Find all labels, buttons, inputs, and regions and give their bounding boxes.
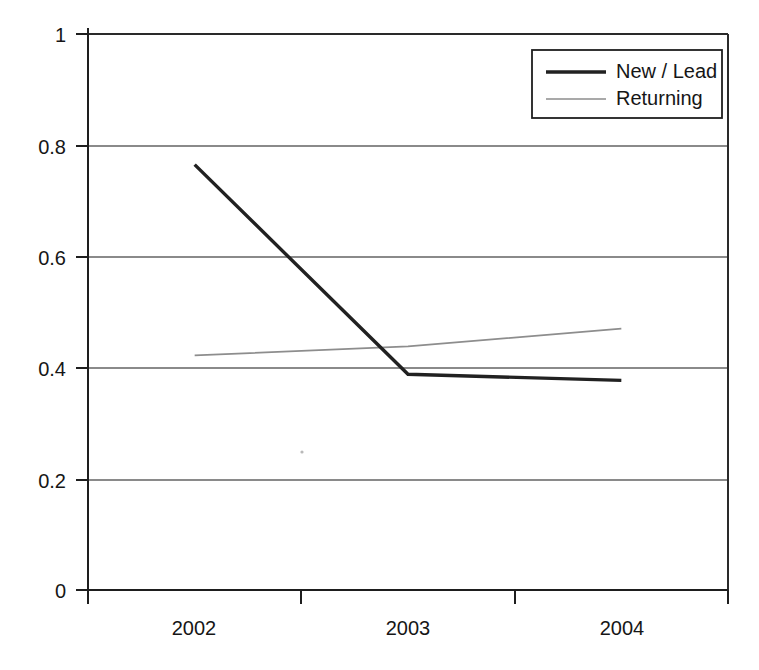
y-tick-label-0.4: 0.4 xyxy=(38,358,66,380)
y-tick-label-0.6: 0.6 xyxy=(38,247,66,269)
scan-speck xyxy=(300,450,303,453)
x-axis-ticks xyxy=(88,590,728,604)
x-axis-labels: 2002 2003 2004 xyxy=(172,617,645,639)
chart-container: 1 0.8 0.6 0.4 0.2 0 2002 2003 2004 xyxy=(0,0,759,670)
chart-legend: New / Lead Returning xyxy=(532,50,722,118)
y-tick-label-1: 1 xyxy=(55,24,66,46)
y-axis-labels: 1 0.8 0.6 0.4 0.2 0 xyxy=(38,24,66,602)
y-axis-ticks xyxy=(76,34,88,590)
x-tick-label-2002: 2002 xyxy=(172,617,217,639)
y-tick-label-0: 0 xyxy=(55,580,66,602)
legend-label-new-lead: New / Lead xyxy=(616,60,717,82)
x-tick-label-2004: 2004 xyxy=(600,617,645,639)
legend-label-returning: Returning xyxy=(616,87,703,109)
y-tick-label-0.8: 0.8 xyxy=(38,136,66,158)
y-tick-label-0.2: 0.2 xyxy=(38,470,66,492)
x-tick-label-2003: 2003 xyxy=(386,617,431,639)
line-chart: 1 0.8 0.6 0.4 0.2 0 2002 2003 2004 xyxy=(0,0,759,670)
